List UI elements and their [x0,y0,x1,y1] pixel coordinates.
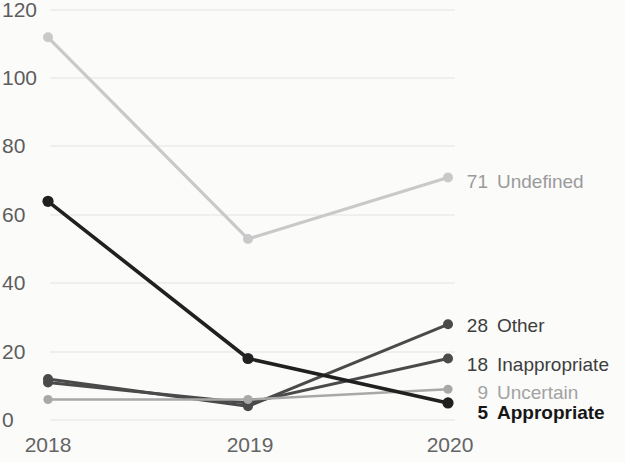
series-label-undefined: 71 Undefined [462,172,584,191]
series-value-appropriate: 5 [462,403,488,422]
series-name-appropriate: Appropriate [497,403,605,422]
data-point [443,354,453,364]
data-point [43,395,52,404]
series-value-other: 28 [462,316,488,335]
series-name-undefined: Undefined [497,172,584,191]
data-point [43,377,53,387]
series-name-other: Other [497,316,545,335]
series-label-uncertain: 9 Uncertain [462,383,578,402]
data-point [442,397,453,408]
series-appropriate [42,196,453,409]
series-label-inappropriate: 18 Inappropriate [462,355,609,374]
data-point [443,385,452,394]
series-label-other: 28 Other [462,316,545,335]
series-undefined [43,32,453,244]
series-line-undefined [48,37,448,239]
line-chart: 120 100 80 60 40 20 0 2018 2019 2020 71 … [0,0,625,462]
xtick-2018: 2018 [25,434,72,455]
series-layer [42,32,453,411]
data-point [443,319,453,329]
series-name-uncertain: Uncertain [497,383,578,402]
data-point [243,395,252,404]
series-value-inappropriate: 18 [462,355,488,374]
series-label-appropriate: 5 Appropriate [462,403,605,422]
series-value-uncertain: 9 [462,383,488,402]
series-name-inappropriate: Inappropriate [497,355,609,374]
data-point [443,172,453,182]
xtick-2019: 2019 [227,434,274,455]
xtick-2020: 2020 [427,434,474,455]
series-value-undefined: 71 [462,172,488,191]
data-point [243,234,253,244]
data-point [43,32,53,42]
data-point [242,353,253,364]
series-line-other [48,324,448,406]
